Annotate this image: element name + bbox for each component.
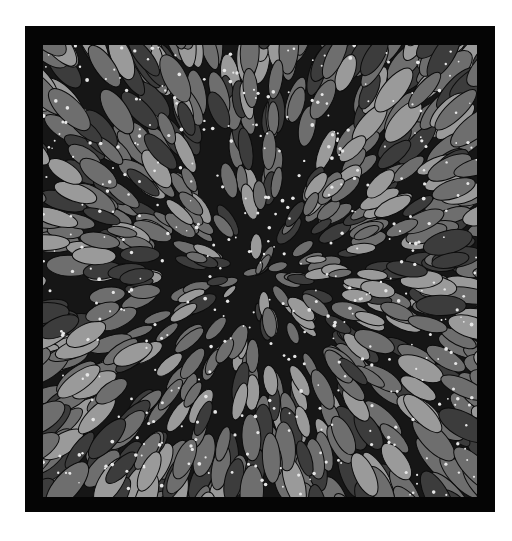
radial-petal-pattern xyxy=(43,45,477,497)
artwork-canvas xyxy=(43,45,477,497)
